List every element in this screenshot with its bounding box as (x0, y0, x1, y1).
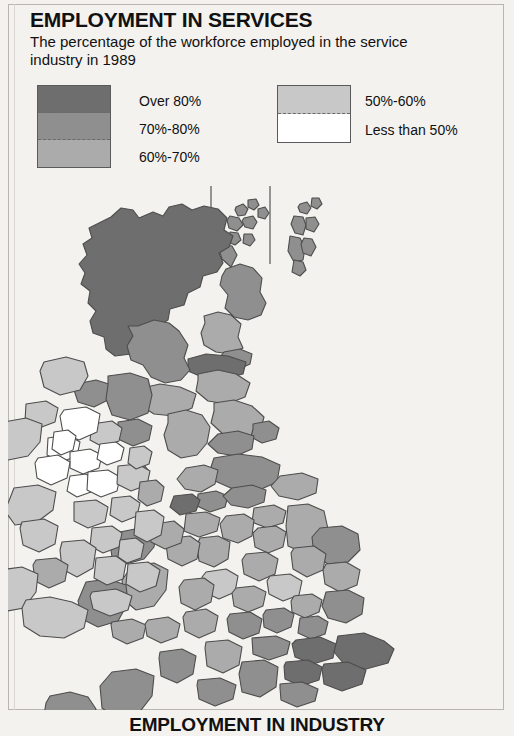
region-west-glamorgan (111, 619, 146, 644)
region-durham (208, 431, 254, 456)
region-devon (100, 669, 154, 710)
region-cambridgeshire (291, 546, 326, 577)
region-hereford-worcester (179, 578, 214, 610)
region-galway (8, 485, 56, 525)
region-berkshire (252, 636, 290, 660)
legend-label-50-60: 50%-60% (365, 93, 426, 109)
region-greater-london (292, 637, 336, 664)
region-cornwall (44, 692, 96, 710)
region-south-yorkshire (252, 505, 286, 528)
region-antrim-belfast (106, 373, 152, 420)
next-section-title: EMPLOYMENT IN INDUSTRY (0, 714, 514, 736)
region-merseyside (170, 494, 200, 515)
region-essex (322, 590, 364, 623)
region-grampian (220, 264, 266, 320)
map-figure-page: EMPLOYMENT IN SERVICES The percentage of… (0, 0, 514, 736)
shetland-islands (288, 198, 322, 276)
region-bedfordshire (291, 594, 322, 618)
region-gloucestershire (183, 609, 218, 638)
legend-label-less-than-50: Less than 50% (365, 122, 458, 138)
region-roscommon (35, 455, 70, 485)
region-hertfordshire (298, 616, 328, 639)
map-svg (8, 176, 504, 710)
region-buckinghamshire (263, 608, 294, 633)
region-louth (128, 446, 152, 469)
region-westmeath (87, 470, 120, 497)
legend-swatch-over-80 (38, 86, 110, 113)
legend-swatch-50-60 (278, 86, 350, 114)
legend-swatch-stack-right (277, 85, 351, 143)
region-cavan (70, 449, 102, 474)
legend: Over 80% 70%-80% 60%-70% 50%-60% Less th… (0, 0, 514, 95)
region-tyne-and-wear (251, 421, 279, 443)
legend-label-over-80: Over 80% (139, 93, 201, 109)
region-clare (20, 519, 58, 552)
region-warwickshire (232, 586, 266, 612)
region-mayo (8, 418, 42, 460)
region-derbyshire (220, 514, 254, 543)
region-hampshire (239, 660, 278, 697)
region-west-sussex (280, 682, 318, 707)
region-tayside (201, 312, 243, 354)
region-monaghan (97, 442, 124, 465)
legend-swatch-70-80 (38, 113, 110, 140)
map-regions-layer (8, 186, 394, 710)
region-wiltshire (205, 640, 242, 673)
region-suffolk (323, 562, 360, 592)
region-kilkenny (94, 556, 126, 585)
region-cheshire (184, 512, 220, 537)
region-borders (196, 370, 250, 404)
region-cumbria (164, 410, 210, 458)
legend-swatch-60-70 (38, 140, 110, 167)
region-greater-manchester (197, 491, 228, 512)
legend-label-60-70: 60%-70% (139, 149, 200, 165)
legend-label-70-80: 70%-80% (139, 121, 200, 137)
region-gwent (145, 617, 180, 643)
region-west-yorkshire (223, 485, 266, 508)
legend-swatch-less-than-50 (278, 114, 350, 142)
region-dublin (138, 480, 164, 506)
region-down (118, 419, 152, 446)
region-donegal (40, 357, 88, 395)
region-strathclyde (127, 320, 190, 383)
region-staffordshire (197, 536, 230, 567)
region-nottinghamshire (253, 526, 286, 553)
legend-swatch-stack-left (37, 85, 111, 168)
region-offaly (74, 500, 108, 528)
region-limerick (33, 558, 68, 588)
region-lancashire (177, 465, 218, 492)
region-somerset (159, 649, 196, 683)
region-dorset (197, 678, 236, 706)
choropleth-map (8, 176, 504, 710)
region-oxfordshire (227, 612, 262, 639)
